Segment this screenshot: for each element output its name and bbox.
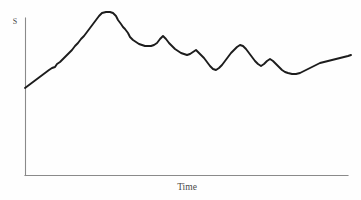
series-line-s-over-time: [25, 12, 351, 88]
chart-figure: S Time: [0, 0, 361, 200]
x-axis-label: Time: [177, 182, 197, 192]
line-chart-plot: S Time: [0, 0, 361, 200]
y-axis-label: S: [13, 17, 17, 26]
